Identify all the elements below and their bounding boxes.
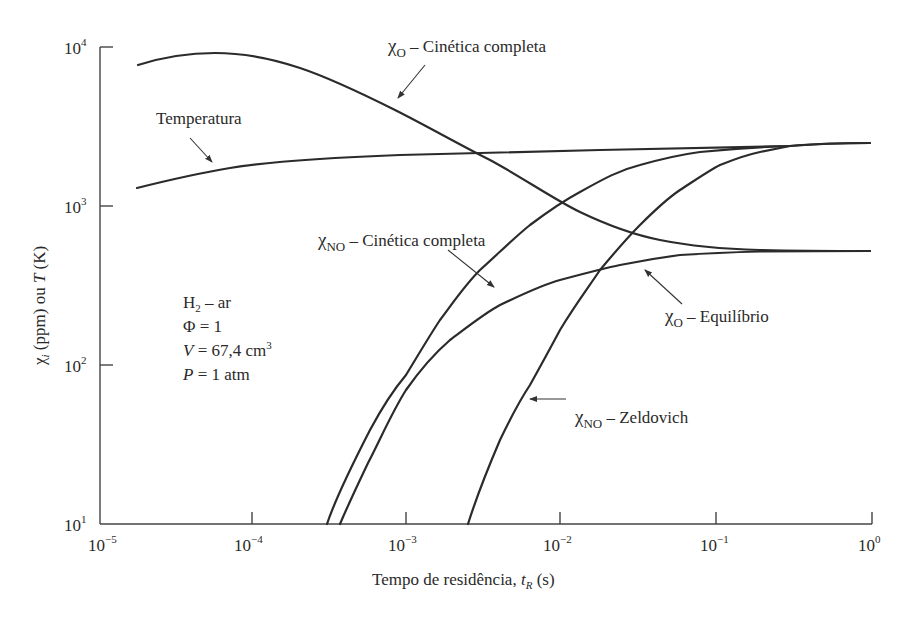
y-tick-label: 102 xyxy=(64,354,87,376)
curve-temperature xyxy=(137,143,870,188)
x-tick-label: 100 xyxy=(858,533,881,555)
y-tick-label: 103 xyxy=(64,195,87,217)
x-tick-label: 10−4 xyxy=(234,533,263,555)
label-chi-no-zeldovich: χNO – Zeldovich xyxy=(574,406,689,431)
x-tick-labels: 10−5 10−4 10−3 10−2 10−1 100 xyxy=(88,533,881,555)
arrow-chi-o-kinetic xyxy=(398,65,425,98)
y-tick-label: 101 xyxy=(64,513,87,535)
label-chi-o-kinetic: χO – Cinética completa xyxy=(387,35,546,60)
x-tick-label: 10−5 xyxy=(88,533,117,555)
curve-chi-no-zeldovich xyxy=(468,143,870,524)
x-tick-label: 10−3 xyxy=(388,533,417,555)
label-chi-o-equilibrium: χO – Equilíbrio xyxy=(664,305,769,330)
x-tick-label: 10−1 xyxy=(700,533,729,555)
label-chi-no-kinetic: χNO – Cinética completa xyxy=(317,229,486,254)
y-tick-labels: 104 103 102 101 xyxy=(64,36,87,535)
condition-mixture: H2 – ar xyxy=(183,293,231,314)
curve-chi-o-equilibrium xyxy=(340,251,870,524)
x-tick-label: 10−2 xyxy=(543,533,572,555)
conditions-block: H2 – ar Φ = 1 V = 67,4 cm3 P = 1 atm xyxy=(182,293,272,384)
series-curves xyxy=(137,53,870,524)
chart-canvas: 104 103 102 101 10−5 10−4 10−3 10−2 10−1… xyxy=(0,0,911,618)
label-temperature: Temperatura xyxy=(156,109,242,128)
condition-equivalence-ratio: Φ = 1 xyxy=(183,317,222,336)
condition-pressure: P = 1 atm xyxy=(182,365,250,384)
arrow-temperature xyxy=(190,138,212,162)
x-axis-title: Tempo de residência, tR (s) xyxy=(372,570,555,591)
arrow-chi-o-equilibrium xyxy=(645,270,682,304)
y-tick-label: 104 xyxy=(64,36,87,58)
condition-volume: V = 67,4 cm3 xyxy=(183,339,272,360)
y-axis-title: χi (ppm) ou T (K) xyxy=(30,246,51,366)
